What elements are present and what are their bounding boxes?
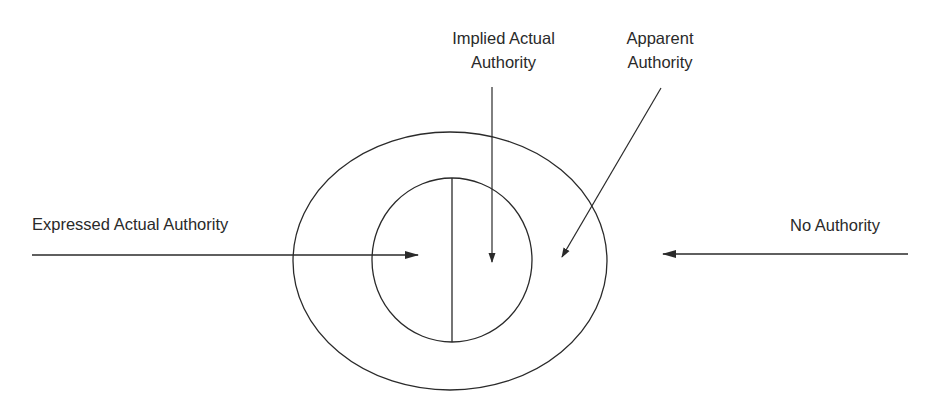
- implied-actual-label-line1: Implied Actual: [432, 26, 575, 50]
- outer-ellipse-apparent-authority: [293, 132, 607, 390]
- no-authority-label: No Authority: [790, 213, 880, 237]
- implied-actual-label-line2: Authority: [432, 50, 575, 74]
- implied-actual-authority-label: Implied Actual Authority: [432, 26, 575, 74]
- apparent-authority-arrow: [562, 88, 661, 257]
- expressed-actual-authority-label: Expressed Actual Authority: [32, 212, 228, 236]
- apparent-label-line1: Apparent: [610, 26, 710, 50]
- apparent-authority-label: Apparent Authority: [610, 26, 710, 74]
- apparent-label-line2: Authority: [610, 50, 710, 74]
